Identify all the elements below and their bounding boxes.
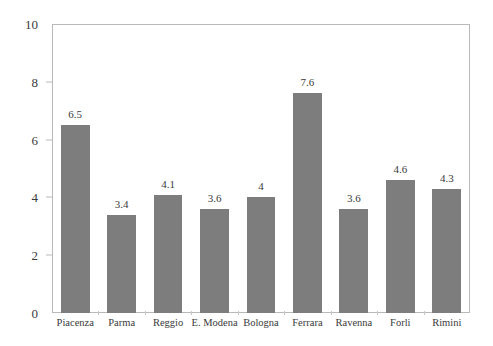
x-axis-tick-label: Rimini (424, 318, 470, 329)
bar-value-label: 3.4 (107, 199, 136, 210)
x-axis-tick-label: Piacenza (52, 318, 98, 329)
bar-group: 3.6 (339, 24, 368, 313)
y-axis-tick-label: 0 (32, 307, 39, 320)
y-axis-tick-label: 6 (32, 133, 39, 146)
bar-group: 6.5 (61, 24, 90, 313)
bar (154, 195, 183, 313)
x-axis-tick-mark (284, 311, 285, 315)
bar (293, 93, 322, 313)
bar-group: 7.6 (293, 24, 322, 313)
bar-group: 4.3 (432, 24, 461, 313)
x-axis-tick-label: Forli (377, 318, 423, 329)
bar-value-label: 3.6 (339, 193, 368, 204)
bar (247, 197, 276, 313)
bar (107, 215, 136, 313)
bar-value-label: 4.3 (432, 173, 461, 184)
bar-group: 4 (247, 24, 276, 313)
x-axis-tick-mark (424, 311, 425, 315)
bar-group: 3.6 (200, 24, 229, 313)
x-axis-tick-label: Reggio (145, 318, 191, 329)
bars-layer: 6.53.44.13.647.63.64.64.3 (52, 24, 470, 313)
bar-value-label: 4.1 (154, 179, 183, 190)
y-axis-tick-label: 10 (25, 18, 38, 31)
y-axis-tick-label: 2 (32, 249, 39, 262)
x-axis-tick-label: Bologna (238, 318, 284, 329)
y-axis-tick-label: 8 (32, 75, 39, 88)
bar-group: 4.6 (386, 24, 415, 313)
x-axis-tick-mark (238, 311, 239, 315)
x-axis: PiacenzaParmaReggioE. ModenaBolognaFerra… (52, 316, 470, 338)
x-axis-tick-label: Ferrara (284, 318, 330, 329)
x-axis-tick-mark (98, 311, 99, 315)
x-axis-tick-mark (145, 311, 146, 315)
bar (386, 180, 415, 313)
bar (339, 209, 368, 313)
bar-value-label: 3.6 (200, 193, 229, 204)
y-axis: 0246810 (0, 0, 52, 346)
bar (61, 125, 90, 313)
x-axis-tick-label: Parma (98, 318, 144, 329)
bar (200, 209, 229, 313)
bar-value-label: 7.6 (293, 77, 322, 88)
bar-group: 4.1 (154, 24, 183, 313)
x-axis-tick-label: E. Modena (191, 318, 237, 329)
x-axis-tick-mark (377, 311, 378, 315)
x-axis-tick-mark (191, 311, 192, 315)
bar-value-label: 6.5 (61, 109, 90, 120)
bar-group: 3.4 (107, 24, 136, 313)
bar (432, 189, 461, 313)
bar-value-label: 4 (247, 181, 276, 192)
y-axis-tick-label: 4 (32, 191, 39, 204)
bar-value-label: 4.6 (386, 164, 415, 175)
x-axis-tick-mark (331, 311, 332, 315)
bar-chart: 0246810 6.53.44.13.647.63.64.64.3 Piacen… (0, 0, 493, 346)
x-axis-tick-label: Ravenna (331, 318, 377, 329)
